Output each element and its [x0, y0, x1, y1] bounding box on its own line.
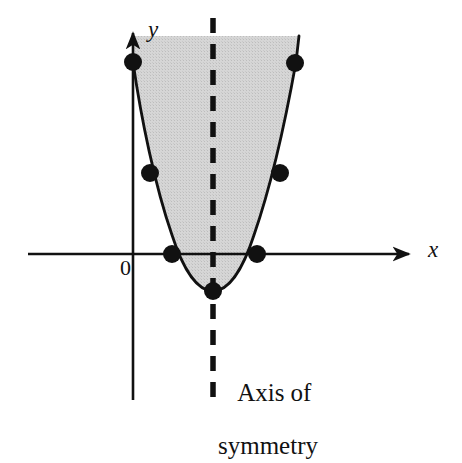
origin-label: 0 [120, 256, 131, 279]
point-top-right [286, 54, 304, 72]
axis-of-symmetry-label-line2: symmetry [218, 433, 318, 459]
point-mid-left [141, 164, 159, 182]
point-x-intercept-right [248, 245, 266, 263]
y-axis-label: y [148, 18, 158, 42]
x-axis-label: x [428, 238, 438, 262]
axis-of-symmetry-label: Axis of symmetry [226, 354, 318, 463]
point-vertex [204, 282, 222, 300]
axis-of-symmetry-label-line1: Axis of [237, 379, 311, 406]
point-top-left [124, 53, 142, 71]
point-mid-right [271, 164, 289, 182]
point-x-intercept-left [163, 245, 181, 263]
